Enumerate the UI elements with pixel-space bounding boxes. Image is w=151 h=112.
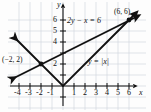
graph-figure: x y -4 -3 -2 -1 1 2 3 4 5 6 6 5 4 2 2y −… [0,0,151,112]
point-label-right: (6, 6) [114,8,130,16]
x-axis-label: x [139,89,143,97]
y-tick-5: 5 [53,27,57,35]
x-tick-1: 1 [72,89,76,97]
curve-equation-label: y = |x| [88,58,109,66]
y-tick-4: 4 [53,38,57,46]
y-axis-label: y [57,1,61,9]
series-line-2y-minus-x-6 [14,16,138,78]
x-tick-2: 2 [83,89,87,97]
x-tick-4: 4 [105,89,109,97]
x-tick--3: -3 [25,89,32,97]
point-label-left: (−2, 2) [2,56,22,64]
x-tick-6: 6 [127,89,131,97]
x-tick--2: -2 [36,89,43,97]
y-tick-2: 2 [53,60,57,68]
y-tick-6: 6 [53,16,57,24]
x-tick-3: 3 [94,89,98,97]
line-equation-label: 2y − x = 6 [67,17,101,25]
x-tick--1: -1 [47,89,54,97]
x-tick-5: 5 [116,89,120,97]
x-tick--4: -4 [14,89,21,97]
